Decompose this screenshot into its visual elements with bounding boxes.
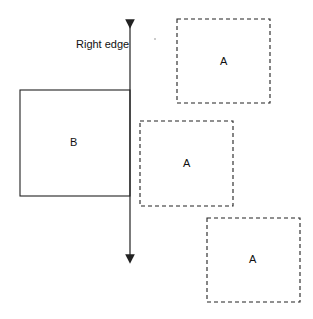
box-a-middle-label: A — [183, 157, 190, 169]
box-b-label: B — [70, 136, 77, 148]
box-a-top-label: A — [220, 55, 227, 67]
diagram-canvas — [0, 0, 313, 319]
right-edge-label: Right edge — [76, 38, 129, 50]
box-a-bottom-label: A — [249, 253, 256, 265]
speck-dot — [154, 38, 156, 40]
